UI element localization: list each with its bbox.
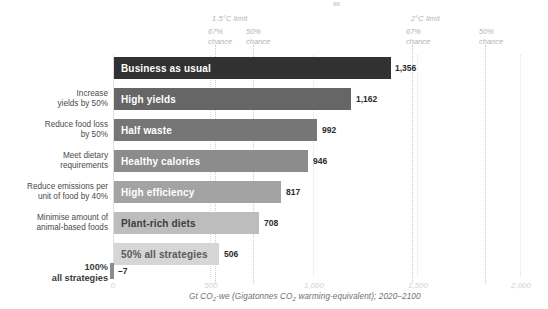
chance-word: chance	[406, 37, 430, 47]
limit-title-1p5c: 1.5°C limit	[212, 14, 247, 23]
bar-100pct-all-strategies[interactable]	[110, 263, 114, 279]
chart-row: Business as usual 1,356	[0, 57, 548, 79]
bar-label: High efficiency	[121, 187, 194, 198]
chart-row: Reduce food loss by 50% Half waste 992	[0, 119, 548, 141]
chance-pct: 50%	[246, 27, 270, 37]
bar-value: –7	[118, 266, 127, 276]
chance-pct: 67%	[208, 27, 232, 37]
bar-value: 817	[286, 187, 300, 197]
bar-value: 1,356	[395, 63, 416, 73]
bar-label: 50% all strategies	[121, 249, 208, 260]
chart-row: Increase yields by 50% High yields 1,162	[0, 88, 548, 110]
xtick-label: 500	[204, 281, 217, 290]
chance-word: chance	[208, 37, 232, 47]
row-description: Reduce emissions per unit of food by 40%	[0, 182, 108, 202]
chance-label-1p5c-50: 50% chance	[246, 27, 270, 46]
bar-high-yields[interactable]: High yields	[114, 88, 351, 110]
chart-row-final: 100% all strategies –7	[0, 262, 548, 282]
chance-word: chance	[479, 37, 503, 47]
row-description: Reduce food loss by 50%	[0, 120, 108, 140]
xtick-label: 1,500	[408, 281, 428, 290]
bar-half-waste[interactable]: Half waste	[114, 119, 317, 141]
xtick-label: 0	[111, 281, 115, 290]
bar-value: 506	[224, 249, 238, 259]
row-description: Increase yields by 50%	[0, 89, 108, 109]
caption-sub-2: 2	[293, 296, 296, 302]
caption-suffix: warming-equivalent); 2020–2100	[296, 292, 421, 301]
caption-prefix: Gt CO	[189, 292, 213, 301]
limit-title-2c: 2°C limit	[411, 14, 440, 23]
bar-value: 992	[322, 125, 336, 135]
bar-healthy-calories[interactable]: Healthy calories	[114, 150, 308, 172]
axis-caption: Gt CO2-we (Gigatonnes CO2 warming-equiva…	[189, 292, 421, 301]
chance-pct: 50%	[479, 27, 503, 37]
row-description: Meet dietary requirements	[0, 151, 108, 171]
chance-word: chance	[246, 37, 270, 47]
bar-label: Plant-rich diets	[121, 218, 196, 229]
bar-value: 708	[264, 218, 278, 228]
chart-row: Minimise amount of animal-based foods Pl…	[0, 212, 548, 234]
chance-label-2c-50: 50% chance	[479, 27, 503, 46]
caption-sub-1: 2	[213, 296, 216, 302]
chance-label-2c-67: 67% chance	[406, 27, 430, 46]
xtick-label: 1,000	[304, 281, 324, 290]
bar-business-as-usual[interactable]: Business as usual	[114, 57, 391, 79]
chart-row: Reduce emissions per unit of food by 40%…	[0, 181, 548, 203]
top-artifact	[333, 2, 340, 6]
bar-plant-rich-diets[interactable]: Plant-rich diets	[114, 212, 259, 234]
bar-high-efficiency[interactable]: High efficiency	[114, 181, 281, 203]
bar-label: Business as usual	[121, 63, 211, 74]
chart-page: 1.5°C limit 2°C limit 67% chance 50% cha…	[0, 0, 548, 309]
row-description: Minimise amount of animal-based foods	[0, 213, 108, 233]
row-description: 100% all strategies	[0, 262, 108, 284]
chance-pct: 67%	[406, 27, 430, 37]
chart-row: Meet dietary requirements Healthy calori…	[0, 150, 548, 172]
caption-mid: -we (Gigatonnes CO	[216, 292, 292, 301]
bar-label: Healthy calories	[121, 156, 200, 167]
bar-value: 1,162	[356, 94, 377, 104]
bar-value: 946	[313, 156, 327, 166]
bar-label: Half waste	[121, 125, 172, 136]
bar-label: High yields	[121, 94, 176, 105]
xtick-label: 2,000	[511, 281, 531, 290]
chance-label-1p5c-67: 67% chance	[208, 27, 232, 46]
